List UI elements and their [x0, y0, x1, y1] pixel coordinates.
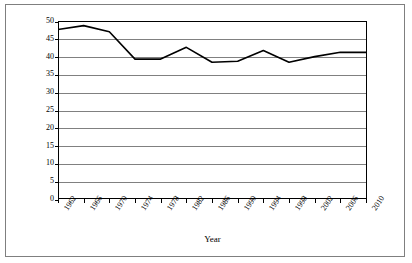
chart-figure: Percent Turnout 50454035302520151050 196…: [0, 0, 412, 263]
x-tick-label-1982: 1982: [191, 208, 198, 212]
x-tick-label-1970: 1970: [114, 208, 121, 212]
x-tick-label-1978: 1978: [165, 208, 172, 212]
x-tick-label-1966: 1966: [88, 208, 95, 212]
x-tick-label-1998: 1998: [294, 208, 301, 212]
x-tick-label-1974: 1974: [140, 208, 147, 212]
x-tick-label-2006: 2006: [345, 208, 352, 212]
x-tick-label-1990: 1990: [242, 208, 249, 212]
x-axis-title: Year: [58, 234, 367, 244]
x-tick-label-2010: 2010: [371, 208, 378, 212]
x-axis-tick-labels: 1962196619701974197819821986199019941998…: [0, 0, 412, 263]
x-tick-label-1962: 1962: [63, 208, 70, 212]
x-tick-label-1986: 1986: [217, 208, 224, 212]
x-tick-label-2002: 2002: [319, 208, 326, 212]
x-tick-label-1994: 1994: [268, 208, 275, 212]
